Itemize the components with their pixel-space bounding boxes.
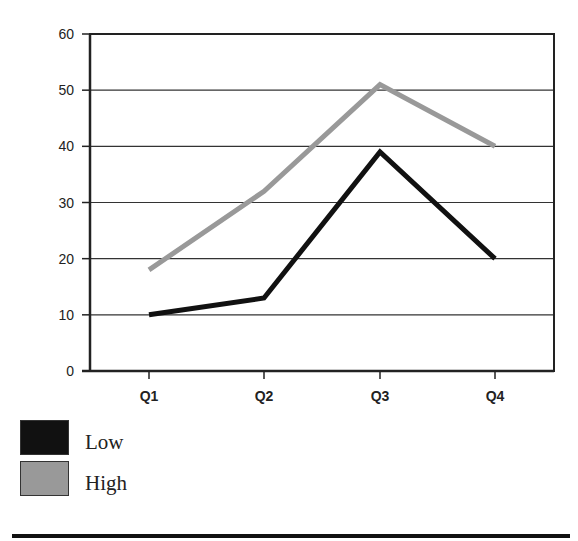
x-tick-label: Q1 <box>140 388 159 404</box>
y-tick-label: 0 <box>66 363 74 379</box>
legend-item-low: Low <box>20 417 127 458</box>
legend-label-high: High <box>85 471 127 496</box>
x-tick-label: Q3 <box>371 388 390 404</box>
legend-item-high: High <box>20 458 127 499</box>
legend-swatch-high <box>20 461 69 496</box>
x-tick-label: Q2 <box>255 388 274 404</box>
legend-label-low: Low <box>85 430 124 455</box>
y-tick-label: 50 <box>58 82 74 98</box>
y-tick-label: 60 <box>58 26 74 42</box>
x-axis-ticks: Q1Q2Q3Q4 <box>140 371 505 404</box>
series-lines <box>149 85 495 315</box>
y-tick-label: 30 <box>58 195 74 211</box>
y-tick-label: 40 <box>58 138 74 154</box>
legend-swatch-low <box>20 420 69 455</box>
gridlines <box>90 90 554 315</box>
series-line-high <box>149 85 495 270</box>
line-chart: 0102030405060 Q1Q2Q3Q4 <box>0 0 578 410</box>
y-tick-label: 10 <box>58 307 74 323</box>
bottom-rule <box>12 534 570 538</box>
y-tick-label: 20 <box>58 251 74 267</box>
legend: Low High <box>20 417 127 499</box>
y-axis-ticks: 0102030405060 <box>58 26 90 379</box>
x-tick-label: Q4 <box>486 388 505 404</box>
